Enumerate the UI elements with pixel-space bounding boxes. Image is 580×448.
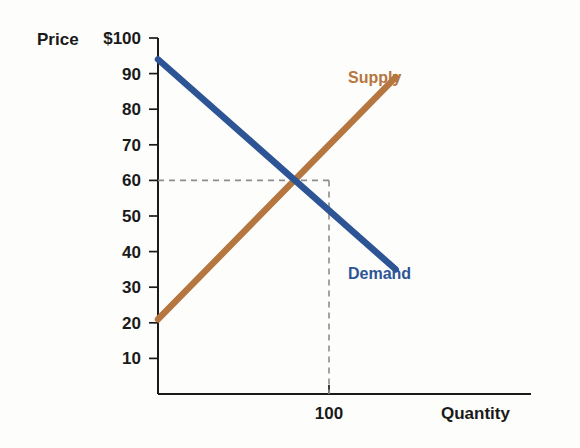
series-label-demand: Demand xyxy=(348,265,411,282)
y-tick-label: 60 xyxy=(122,171,141,190)
x-tick-label: 100 xyxy=(315,404,343,423)
y-axis-title: Price xyxy=(37,30,79,49)
series-labels-group: SupplyDemand xyxy=(348,69,411,282)
y-tick-label: 50 xyxy=(122,207,141,226)
y-tick-label: 80 xyxy=(122,100,141,119)
y-tick-label: 20 xyxy=(122,314,141,333)
y-tick-label: 10 xyxy=(122,349,141,368)
series-label-supply: Supply xyxy=(348,69,401,86)
y-tick-label: $100 xyxy=(103,29,141,48)
curve-demand xyxy=(158,59,396,269)
curve-supply xyxy=(158,77,396,319)
axes-group xyxy=(158,38,531,394)
y-tick-label: 30 xyxy=(122,278,141,297)
x-axis-tick-labels: 100 xyxy=(315,404,343,423)
y-axis-tick-marks xyxy=(149,38,158,358)
chart-canvas: $100908070605040302010 100 SupplyDemand … xyxy=(0,0,580,448)
equilibrium-guides xyxy=(158,180,329,394)
supply-demand-chart-figure: $100908070605040302010 100 SupplyDemand … xyxy=(0,0,580,448)
x-axis-title: Quantity xyxy=(441,404,510,423)
y-tick-label: 40 xyxy=(122,243,141,262)
y-tick-label: 90 xyxy=(122,65,141,84)
y-tick-label: 70 xyxy=(122,136,141,155)
y-axis-tick-labels: $100908070605040302010 xyxy=(103,29,141,368)
